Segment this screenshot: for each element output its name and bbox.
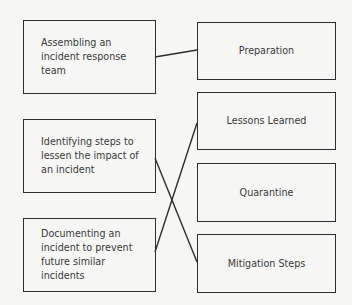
left-box-label: Documenting an incident to prevent futur…	[41, 227, 149, 283]
connector-assembling-to-preparation	[155, 50, 197, 57]
left-box-documenting-incident: Documenting an incident to prevent futur…	[23, 218, 156, 292]
right-box-label: Preparation	[239, 44, 294, 58]
right-box-label: Quarantine	[240, 186, 294, 200]
right-box-quarantine: Quarantine	[197, 163, 336, 222]
right-box-lessons-learned: Lessons Learned	[197, 92, 336, 150]
connector-identifying-to-mitigation	[155, 158, 197, 262]
right-box-label: Lessons Learned	[227, 114, 307, 128]
connector-documenting-to-lessons	[155, 123, 197, 252]
left-box-assembling-team: Assembling an incident response team	[23, 20, 156, 94]
left-box-label: Identifying steps to lessen the impact o…	[41, 135, 149, 177]
right-box-mitigation-steps: Mitigation Steps	[197, 234, 336, 293]
left-box-label: Assembling an incident response team	[41, 36, 149, 78]
right-box-label: Mitigation Steps	[228, 257, 306, 271]
left-box-identifying-steps: Identifying steps to lessen the impact o…	[23, 119, 156, 193]
right-box-preparation: Preparation	[197, 22, 336, 80]
